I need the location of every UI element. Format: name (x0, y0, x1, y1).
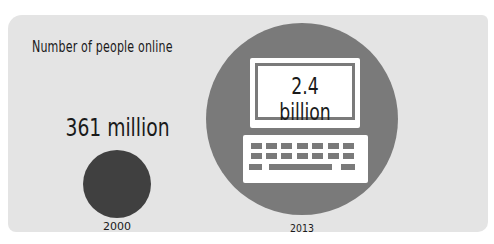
key (251, 153, 262, 159)
value-label-2000: 361 million (49, 114, 186, 142)
key (328, 143, 339, 149)
key (281, 153, 292, 159)
key (266, 153, 277, 159)
key (281, 143, 292, 149)
key (328, 153, 339, 159)
bubble-2000 (83, 150, 151, 218)
key (343, 143, 354, 149)
key (312, 153, 323, 159)
year-label-2000: 2000 (83, 220, 151, 233)
key (312, 143, 323, 149)
key (297, 143, 308, 149)
key (341, 164, 355, 170)
value-label-2013: 2.4 billion (264, 73, 347, 125)
key (297, 153, 308, 159)
key (343, 153, 354, 159)
key (266, 143, 277, 149)
key (249, 164, 262, 170)
key (251, 143, 262, 149)
spacebar (269, 164, 332, 170)
laptop-keyboard (243, 135, 368, 183)
year-label-2013: 2013 (275, 222, 329, 235)
chart-title: Number of people online (32, 38, 173, 56)
